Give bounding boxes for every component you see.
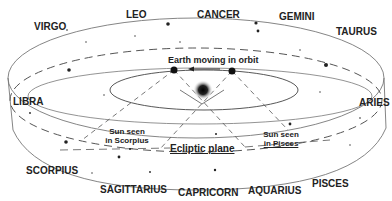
label-sun-pisces: Sun seen in Pisces — [260, 131, 302, 149]
label-sagittarius: SAGITTARIUS — [100, 185, 167, 195]
label-scorpius: SCORPIUS — [26, 166, 78, 176]
earth-position-2 — [229, 68, 236, 75]
label-taurus: TAURUS — [336, 27, 377, 37]
label-aries: ARIES — [359, 98, 390, 108]
label-leo: LEO — [126, 10, 147, 20]
sun — [193, 80, 213, 100]
label-capricorn: CAPRICORN — [178, 188, 239, 198]
label-earth-orbit: Earth moving in orbit — [168, 56, 259, 65]
label-sun-scorpius: Sun seen in Scorpius — [103, 128, 151, 146]
label-virgo: VIRGO — [34, 22, 66, 32]
sun-scorpius-line2: in Scorpius — [103, 137, 151, 146]
orbit-arrow-icon — [188, 67, 194, 72]
label-cancer: CANCER — [197, 10, 240, 20]
label-ecliptic-plane: Ecliptic plane — [170, 144, 234, 154]
label-libra: LIBRA — [13, 97, 44, 107]
sun-pisces-line2: in Pisces — [260, 140, 302, 149]
label-pisces: PISCES — [312, 179, 349, 189]
label-aquarius: AQUARIUS — [248, 186, 301, 196]
label-gemini: GEMINI — [279, 12, 315, 22]
earth-position-1 — [171, 67, 178, 74]
outer-band-top — [8, 18, 384, 138]
zodiac-diagram: VIRGO LEO CANCER GEMINI TAURUS LIBRA ARI… — [0, 0, 392, 201]
